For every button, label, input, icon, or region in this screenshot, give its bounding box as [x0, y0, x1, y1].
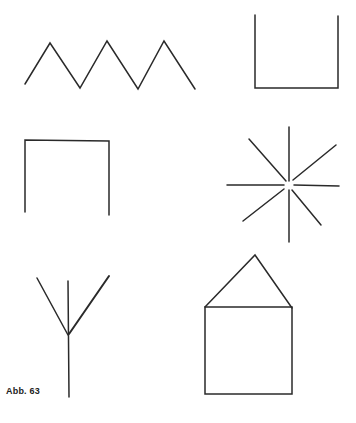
- figure-canvas: [0, 0, 356, 423]
- figure-caption: Abb. 63: [6, 386, 40, 396]
- u-open-top-figure: [255, 15, 338, 88]
- tree-fork-figure: [37, 276, 109, 397]
- star-burst-figure: [227, 127, 339, 242]
- zigzag-figure: [25, 41, 195, 89]
- house-figure: [205, 255, 292, 394]
- u-open-bottom-figure: [25, 140, 109, 215]
